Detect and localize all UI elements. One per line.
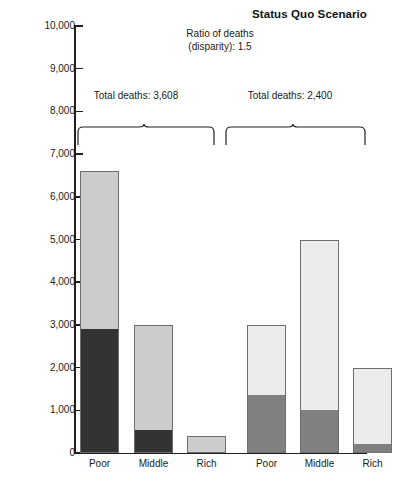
category-label-g2-poor: Poor xyxy=(239,458,294,469)
category-label-g2-middle: Middle xyxy=(292,458,347,469)
bar-segment-upper xyxy=(187,436,226,453)
plot-area xyxy=(74,26,367,453)
bar-segment-upper xyxy=(247,325,286,395)
bar-g2-poor xyxy=(247,325,286,453)
y-tick-label-8000: 8,000 xyxy=(15,105,75,116)
bar-g2-rich xyxy=(353,368,392,453)
y-tick-label-9000: 9,000 xyxy=(15,62,75,73)
bar-segment-lower xyxy=(300,410,339,453)
y-tick-label-1000: 1,000 xyxy=(15,404,75,415)
bar-segment-lower xyxy=(353,444,392,453)
bar-g1-rich xyxy=(187,436,226,453)
bar-segment-lower xyxy=(80,329,119,453)
bar-g1-middle xyxy=(134,325,173,453)
bar-segment-lower xyxy=(247,395,286,453)
bar-segment-upper xyxy=(134,325,173,430)
category-label-g1-rich: Rich xyxy=(179,458,234,469)
bar-segment-upper xyxy=(80,171,119,329)
bar-segment-upper xyxy=(353,368,392,445)
bar-g2-middle xyxy=(300,240,339,454)
y-tick-label-6000: 6,000 xyxy=(15,190,75,201)
category-label-g2-rich: Rich xyxy=(345,458,396,469)
bar-segment-lower xyxy=(134,430,173,453)
y-tick-label-3000: 3,000 xyxy=(15,318,75,329)
category-label-g1-poor: Poor xyxy=(72,458,127,469)
y-tick-label-4000: 4,000 xyxy=(15,276,75,287)
category-label-g1-middle: Middle xyxy=(126,458,181,469)
y-tick-label-7000: 7,000 xyxy=(15,148,75,159)
chart-title: Status Quo Scenario xyxy=(252,8,367,20)
y-tick-label-2000: 2,000 xyxy=(15,361,75,372)
y-tick-label-10000: 10,000 xyxy=(15,20,75,31)
bar-segment-upper xyxy=(300,240,339,411)
y-tick-label-0: 0 xyxy=(15,447,75,458)
bar-g1-poor xyxy=(80,171,119,453)
y-tick-label-5000: 5,000 xyxy=(15,233,75,244)
